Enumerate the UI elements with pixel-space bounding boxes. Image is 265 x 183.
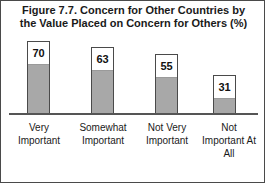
x-tick-line-3: All (197, 147, 261, 160)
x-tick-label-not-important-at-all: Not Important At All (197, 121, 261, 160)
bar-somewhat-important: 63 (91, 47, 114, 114)
bar-value-box: 55 (156, 55, 177, 78)
x-tick-line-2: Important (71, 134, 135, 147)
x-tick-line-2: Important At (197, 134, 261, 147)
figure-container: Figure 7.7. Concern for Other Countries … (0, 0, 265, 183)
x-tick-line-1: Not (197, 121, 261, 134)
x-tick-line-1: Very (11, 121, 67, 134)
bar-not-important-at-all: 31 (213, 75, 236, 114)
x-tick-label-not-very-important: Not Very Important (137, 121, 197, 147)
x-tick-line-2: Important (11, 134, 67, 147)
bar-value-label: 31 (218, 82, 230, 93)
bar-value-box: 70 (28, 42, 49, 65)
bar-value-label: 55 (160, 61, 172, 72)
bar-not-very-important: 55 (155, 54, 178, 114)
bar-value-label: 63 (96, 54, 108, 65)
bar-value-label: 70 (32, 48, 44, 59)
x-tick-label-very-important: Very Important (11, 121, 67, 147)
x-axis-line (9, 113, 258, 115)
bar-value-box: 63 (92, 48, 113, 71)
x-tick-line-1: Somewhat (71, 121, 135, 134)
x-tick-label-somewhat-important: Somewhat Important (71, 121, 135, 147)
bar-value-box: 31 (214, 76, 235, 99)
bar-very-important: 70 (27, 41, 50, 114)
plot-area: 70 63 55 31 Very Important Somewhat Impo… (1, 1, 265, 183)
x-tick-line-1: Not Very (137, 121, 197, 134)
x-tick-line-2: Important (137, 134, 197, 147)
